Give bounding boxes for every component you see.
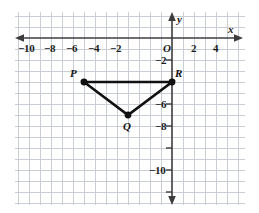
vertex-point-p [81,79,88,86]
x-tick-label-2: 2 [191,43,196,54]
grid-lines [15,12,245,205]
x-tick-label-neg6: −6 [66,43,77,54]
point-label-q: Q [123,121,131,132]
y-tick-label-neg8: −8 [155,121,166,132]
y-axis-name: y [177,14,182,25]
x-axis [15,34,243,42]
coordinate-plane-figure: −10 −8 −6 −4 −2 O 2 4 −2 −6 −8 −10 y x P… [0,0,259,213]
point-label-r: R [175,68,182,79]
y-tick-label-neg2: −2 [155,55,166,66]
point-label-p: P [70,68,77,79]
x-tick-label-neg2: −2 [110,43,121,54]
graph-canvas [0,0,259,213]
x-axis-name: x [228,24,234,35]
x-tick-label-neg4: −4 [88,43,99,54]
vertex-point-r [169,79,176,86]
y-tick-label-neg6: −6 [155,99,166,110]
vertex-point-q [125,112,132,119]
y-axis [168,12,176,205]
x-tick-label-neg8: −8 [44,43,55,54]
origin-label: O [163,43,171,54]
x-tick-label-neg10: −10 [18,43,35,54]
y-tick-label-neg10: −10 [149,165,166,176]
x-tick-label-4: 4 [213,43,218,54]
